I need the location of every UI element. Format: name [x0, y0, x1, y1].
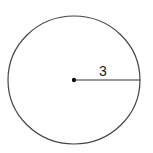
circle-diagram: 3	[0, 0, 153, 153]
radius-label: 3	[99, 63, 107, 79]
center-point	[72, 78, 76, 82]
